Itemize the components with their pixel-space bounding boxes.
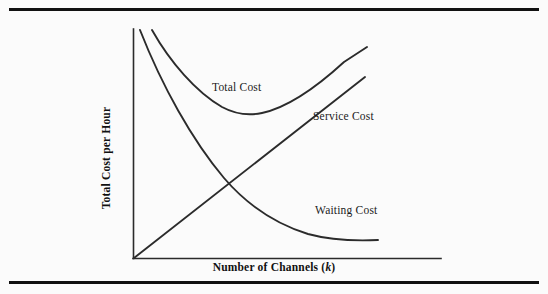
x-axis-title-tail: ) [331, 261, 335, 273]
annotation-total-cost: Total Cost [212, 81, 261, 93]
curve-service-cost [134, 77, 365, 258]
figure-container: Total Cost Service Cost Waiting Cost Num… [0, 0, 548, 294]
y-axis-title: Total Cost per Hour [100, 107, 112, 210]
annotation-waiting-cost: Waiting Cost [315, 204, 378, 216]
y-axis-title-wrap: Total Cost per Hour [97, 98, 115, 218]
x-axis-title-text: Number of Channels ( [213, 261, 326, 273]
cost-curves-plot [0, 0, 548, 294]
x-axis-title: Number of Channels (k) [0, 261, 548, 273]
annotation-service-cost: Service Cost [313, 110, 374, 122]
